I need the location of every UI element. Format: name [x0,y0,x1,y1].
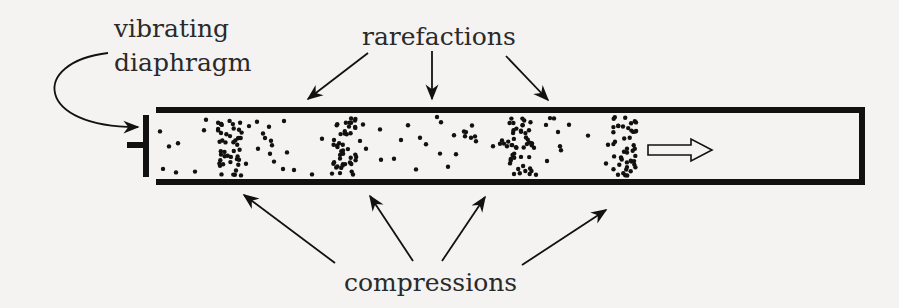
air-particle [523,131,527,135]
air-particle [364,147,368,151]
air-particle [521,164,525,168]
air-particle [567,123,571,127]
air-particle [509,143,513,147]
compression-arrow-2 [370,196,413,261]
air-particle [439,120,443,124]
rarefaction-arrow-3 [506,56,548,100]
air-particle [406,123,410,127]
air-particle [633,129,637,133]
air-particle [452,133,456,137]
air-particle [285,150,289,154]
air-particle [219,172,223,176]
air-particle [520,123,524,127]
diaphragm-label: diaphragm [114,48,252,78]
air-particle [611,125,615,129]
air-particle [341,163,345,167]
propagation-direction-icon [648,139,712,161]
air-particle [505,144,509,148]
air-particle [176,141,180,145]
air-particle [232,126,236,130]
air-particle [218,158,222,162]
air-particle [217,140,221,144]
air-particle [343,129,347,133]
air-particle [167,144,171,148]
air-particle [626,126,630,130]
air-particle [469,136,473,140]
air-particle [219,149,223,153]
air-particle [222,150,226,154]
air-particle [616,124,620,128]
air-particle [464,130,468,134]
air-particle [353,158,357,162]
air-particle [174,170,178,174]
air-particle [534,173,538,177]
air-particle [231,122,235,126]
air-particle [158,129,162,133]
air-particle [633,154,637,158]
air-particle [320,137,324,141]
air-particle [528,120,532,124]
air-particle [624,167,628,171]
air-particle [202,128,206,132]
air-particle [620,157,624,161]
air-particle [634,120,638,124]
rarefaction-arrows [308,51,548,100]
air-particle [332,138,336,142]
air-particle [282,119,286,123]
air-particle [507,121,511,125]
air-particle [516,167,520,171]
air-particle [228,160,232,164]
rarefactions-label: rarefactions [362,22,516,52]
air-particle [349,121,353,125]
air-particle [511,128,515,132]
air-particle [255,120,259,124]
air-particle [616,173,620,177]
air-particle [518,171,522,175]
air-particle [239,136,243,140]
air-particle [332,160,336,164]
air-particle [335,122,339,126]
air-particle [292,168,296,172]
air-particle [341,143,345,147]
air-particle [268,152,272,156]
air-particle [604,161,608,165]
air-particle [621,171,625,175]
air-particle [525,142,529,146]
diaphragm-stem [127,142,145,148]
air-particle [527,128,531,132]
air-particle [224,132,228,136]
air-particle [349,116,353,120]
air-particle [628,136,632,140]
air-particle [351,172,355,176]
air-particle [226,154,230,158]
air-particle [239,173,243,177]
air-particle [613,140,617,144]
air-particle [629,121,633,125]
air-particle [267,125,271,129]
air-particle [234,168,238,172]
air-particle [544,123,548,127]
air-particle [261,131,265,135]
air-particle [612,117,616,121]
air-particle [633,147,637,151]
air-particle [446,165,450,169]
air-particle [491,144,495,148]
air-particle [353,126,357,130]
air-particle [263,136,267,140]
air-particle [611,167,615,171]
air-particle [621,124,625,128]
air-particle [511,121,515,125]
air-particle [330,171,334,175]
air-particle [454,152,458,156]
air-particle [353,117,357,121]
air-particle [348,131,352,135]
air-particle [270,143,274,147]
air-particle [617,163,621,167]
air-particle [559,148,563,152]
air-particle [232,149,236,153]
air-particle [344,121,348,125]
air-particle [237,148,241,152]
air-particle [519,130,523,134]
air-particle [612,154,616,158]
compressions-label: compressions [344,268,517,298]
